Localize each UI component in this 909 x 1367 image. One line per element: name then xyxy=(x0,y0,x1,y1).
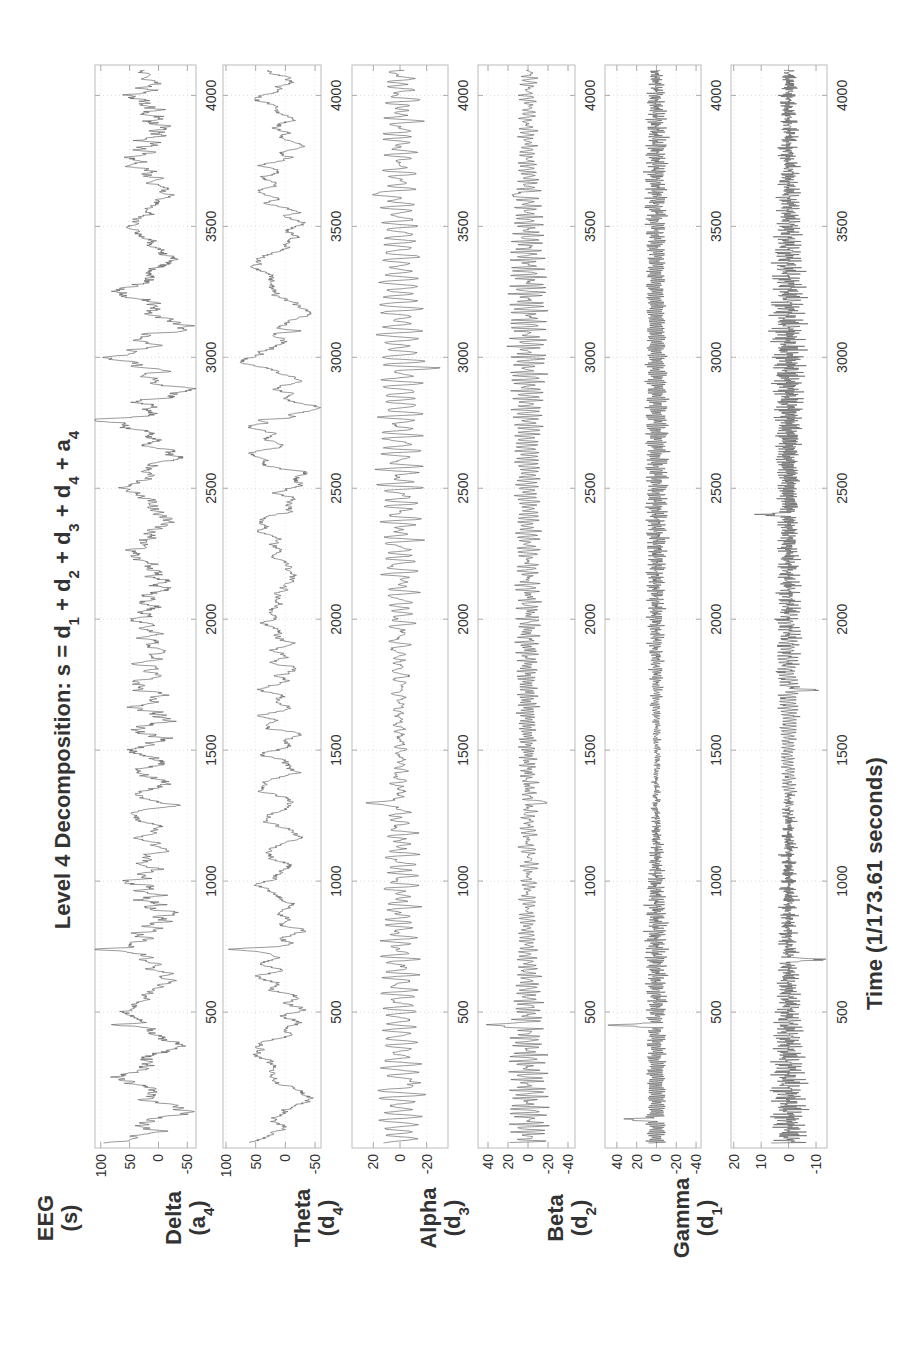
x-tick-label: 1500 xyxy=(203,734,219,765)
y-tick-label: 40 xyxy=(480,1154,496,1170)
x-tick-label: 2500 xyxy=(328,472,344,503)
panel-label: Theta xyxy=(290,1188,315,1247)
x-tick-label: 2000 xyxy=(328,603,344,634)
x-tick-label: 500 xyxy=(455,1000,471,1024)
y-tick-label: 0 xyxy=(648,1154,664,1162)
x-tick-label: 4000 xyxy=(203,80,219,111)
x-tick-label: 3500 xyxy=(834,211,850,242)
wavelet-decomposition-figure: Level 4 Decomposition: s = d1 + d2 + d3 … xyxy=(0,0,909,1367)
panel-sublabel: (s) xyxy=(57,1205,82,1232)
x-tick-label: 500 xyxy=(834,1000,850,1024)
x-tick-label: 3500 xyxy=(708,211,724,242)
y-tick-label: -50 xyxy=(307,1154,323,1174)
x-tick-label: 2500 xyxy=(834,472,850,503)
x-tick-label: 4000 xyxy=(834,80,850,111)
y-tick-label: 0 xyxy=(150,1154,166,1162)
y-tick-label: -20 xyxy=(668,1154,684,1174)
x-tick-label: 1000 xyxy=(708,865,724,896)
x-tick-label: 3500 xyxy=(203,211,219,242)
x-tick-label: 3000 xyxy=(328,342,344,373)
y-tick-label: -10 xyxy=(808,1154,824,1174)
y-tick-label: -20 xyxy=(540,1154,556,1174)
panel-sublabel: (d1) xyxy=(693,1200,725,1236)
x-tick-label: 2000 xyxy=(582,603,598,634)
x-tick-label: 2000 xyxy=(203,603,219,634)
y-tick-label: 20 xyxy=(629,1154,645,1170)
y-tick-label: 10 xyxy=(753,1154,769,1170)
x-tick-label: 3500 xyxy=(582,211,598,242)
x-tick-label: 4000 xyxy=(328,80,344,111)
panel-sublabel: (d2) xyxy=(567,1200,599,1236)
x-tick-label: 2000 xyxy=(455,603,471,634)
x-tick-label: 2500 xyxy=(582,472,598,503)
x-tick-label: 4000 xyxy=(582,80,598,111)
x-tick-label: 500 xyxy=(582,1000,598,1024)
chart-title: Level 4 Decomposition: s = d1 + d2 + d3 … xyxy=(50,430,82,929)
panel-sublabel: (d4) xyxy=(314,1200,346,1236)
x-tick-label: 500 xyxy=(328,1000,344,1024)
x-tick-label: 4000 xyxy=(455,80,471,111)
x-tick-label: 1000 xyxy=(455,865,471,896)
panel-frame xyxy=(223,65,321,1148)
x-tick-label: 3000 xyxy=(582,342,598,373)
x-tick-label: 2000 xyxy=(708,603,724,634)
panel-label: Alpha xyxy=(416,1187,441,1249)
panel-frame xyxy=(478,65,575,1148)
y-tick-label: -50 xyxy=(179,1154,195,1174)
x-tick-label: 1500 xyxy=(328,734,344,765)
y-tick-label: -20 xyxy=(419,1154,435,1174)
x-tick-label: 1000 xyxy=(582,865,598,896)
x-tick-label: 1000 xyxy=(203,865,219,896)
y-tick-label: -40 xyxy=(688,1154,704,1174)
x-tick-label: 3000 xyxy=(455,342,471,373)
x-tick-label: 3000 xyxy=(203,342,219,373)
y-tick-label: 20 xyxy=(500,1154,516,1170)
panel-label: Gamma xyxy=(669,1177,694,1258)
x-tick-label: 3000 xyxy=(708,342,724,373)
panel-frame xyxy=(731,65,827,1148)
y-tick-label: 0 xyxy=(781,1154,797,1162)
y-tick-label: 100 xyxy=(218,1154,234,1178)
x-tick-label: 1500 xyxy=(834,734,850,765)
y-tick-label: 20 xyxy=(726,1154,742,1170)
x-tick-label: 1500 xyxy=(582,734,598,765)
x-tick-label: 1000 xyxy=(328,865,344,896)
x-tick-label: 3500 xyxy=(455,211,471,242)
y-tick-label: 20 xyxy=(365,1154,381,1170)
x-axis-label: Time (1/173.61 seconds) xyxy=(862,757,887,1010)
x-tick-label: 1000 xyxy=(834,865,850,896)
x-tick-label: 1500 xyxy=(455,734,471,765)
x-tick-label: 3000 xyxy=(834,342,850,373)
x-tick-label: 500 xyxy=(708,1000,724,1024)
panel-sublabel: (d3) xyxy=(440,1200,472,1236)
y-tick-label: 50 xyxy=(248,1154,264,1170)
panel-sublabel: (a4) xyxy=(185,1200,217,1235)
y-tick-label: 0 xyxy=(520,1154,536,1162)
y-tick-label: 40 xyxy=(609,1154,625,1170)
subplot-panels: 100500-505001000150020002500300035004000… xyxy=(33,65,850,1258)
y-tick-label: -40 xyxy=(560,1154,576,1174)
x-tick-label: 2000 xyxy=(834,603,850,634)
y-tick-label: 100 xyxy=(93,1154,109,1178)
x-tick-label: 3500 xyxy=(328,211,344,242)
x-tick-label: 2500 xyxy=(203,472,219,503)
panel-label: Delta xyxy=(161,1190,186,1245)
y-tick-label: 0 xyxy=(277,1154,293,1162)
x-tick-label: 4000 xyxy=(708,80,724,111)
panel-label: Beta xyxy=(543,1193,568,1241)
x-tick-label: 1500 xyxy=(708,734,724,765)
y-tick-label: 0 xyxy=(392,1154,408,1162)
x-tick-label: 2500 xyxy=(455,472,471,503)
x-tick-label: 2500 xyxy=(708,472,724,503)
y-tick-label: 50 xyxy=(122,1154,138,1170)
panel-label: EEG xyxy=(33,1195,58,1241)
x-tick-label: 500 xyxy=(203,1000,219,1024)
panel-frame xyxy=(95,65,196,1148)
